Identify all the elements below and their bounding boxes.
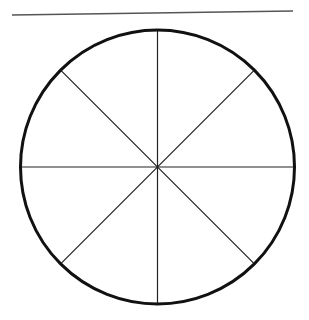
top-rule-line — [12, 11, 293, 15]
pie-circle-diagram — [0, 0, 309, 320]
